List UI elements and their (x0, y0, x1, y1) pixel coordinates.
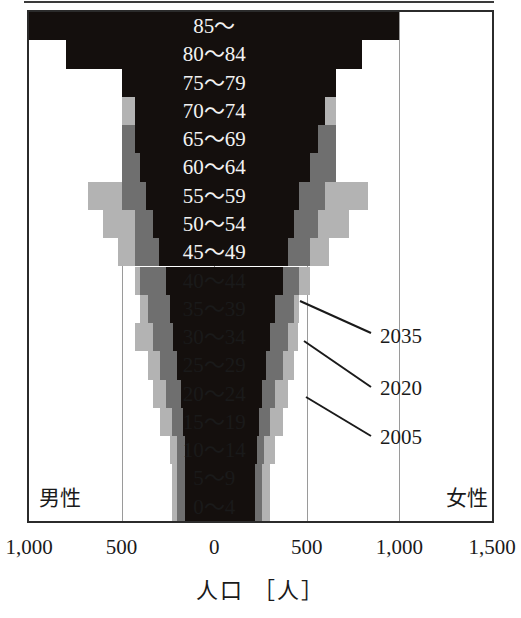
bar-male-2035 (122, 69, 215, 97)
bar-female-2035 (214, 267, 283, 295)
bar-female-2035 (214, 40, 362, 68)
bar-male-2035 (153, 210, 214, 238)
bar-male-2035 (185, 493, 215, 521)
x-tick-label: 500 (291, 535, 323, 560)
bar-female-2035 (214, 238, 288, 266)
bar-female-2035 (214, 97, 325, 125)
bar-male-2035 (185, 464, 215, 492)
bar-female-2035 (214, 153, 310, 181)
bar-female-2035 (214, 464, 255, 492)
bar-male-2035 (135, 125, 215, 153)
bar-male-2035 (146, 182, 215, 210)
bar-male-2035 (177, 351, 214, 379)
figure-top-rule (24, 1, 494, 3)
plot-inner: 85〜80〜8475〜7970〜7465〜6960〜6455〜5950〜5445… (29, 12, 492, 521)
x-tick-label: 1,000 (5, 535, 52, 560)
x-tick-label: 1,000 (376, 535, 423, 560)
series-annotation-2020: 2020 (380, 376, 422, 401)
plot-area: 85〜80〜8475〜7970〜7465〜6960〜6455〜5950〜5445… (27, 10, 494, 523)
bar-female-2035 (214, 380, 262, 408)
bar-female-2035 (214, 69, 336, 97)
bar-male-2035 (135, 97, 215, 125)
bar-male-2035 (181, 380, 214, 408)
bar-male-2035 (140, 153, 214, 181)
bar-female-2035 (214, 408, 258, 436)
bar-male-2035 (170, 295, 214, 323)
bar-female-2035 (214, 125, 318, 153)
bar-female-2035 (214, 323, 270, 351)
bar-male-2035 (185, 436, 215, 464)
x-axis-title: 人口 ［人］ (0, 572, 521, 604)
bar-female-2035 (214, 351, 266, 379)
bar-male-2035 (173, 323, 214, 351)
x-tick-label: 0 (209, 535, 220, 560)
x-tick-label: 500 (106, 535, 138, 560)
bar-female-2035 (214, 295, 275, 323)
bar-male-2035 (166, 267, 214, 295)
bar-female-2035 (214, 210, 294, 238)
population-pyramid-figure: 85〜80〜8475〜7970〜7465〜6960〜6455〜5950〜5445… (0, 0, 521, 618)
female-side-label: 女性 (446, 481, 488, 511)
series-annotation-2005: 2005 (380, 425, 422, 450)
x-tick-label: 1,500 (468, 535, 515, 560)
male-side-label: 男性 (39, 481, 81, 511)
bar-female-2035 (214, 12, 399, 40)
bar-male-2035 (66, 40, 214, 68)
bar-male-2035 (183, 408, 214, 436)
bar-male-2035 (29, 12, 214, 40)
bar-female-2035 (214, 436, 257, 464)
bar-female-2035 (214, 493, 255, 521)
series-annotation-2035: 2035 (380, 324, 422, 349)
bar-male-2035 (159, 238, 215, 266)
bar-female-2035 (214, 182, 299, 210)
